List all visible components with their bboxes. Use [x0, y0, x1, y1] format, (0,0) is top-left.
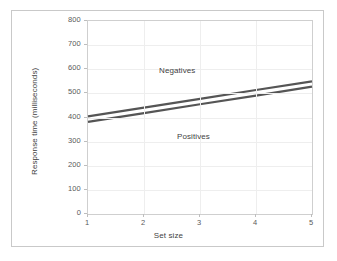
y-tick-label: 800 — [41, 15, 81, 24]
annotation-positives: Positives — [177, 132, 210, 141]
x-axis-label: Set size — [0, 231, 337, 240]
y-tick-mark — [84, 117, 87, 118]
annotation-negatives: Negatives — [159, 66, 195, 75]
chart-figure: Response time (milliseconds) 01002003004… — [0, 0, 337, 261]
x-tick-label: 5 — [301, 218, 321, 227]
x-tick-label: 4 — [245, 218, 265, 227]
y-axis-label: Response time (milliseconds) — [30, 67, 39, 174]
y-tick-mark — [84, 141, 87, 142]
x-tick-mark — [311, 214, 312, 217]
gridline-vertical — [144, 21, 145, 214]
x-tick-mark — [87, 214, 88, 217]
y-tick-label: 100 — [41, 184, 81, 193]
y-tick-mark — [84, 68, 87, 69]
y-tick-mark — [84, 92, 87, 93]
y-tick-label: 600 — [41, 63, 81, 72]
gridline-vertical — [256, 21, 257, 214]
y-tick-mark — [84, 20, 87, 21]
y-tick-mark — [84, 189, 87, 190]
x-tick-mark — [199, 214, 200, 217]
y-tick-label: 400 — [41, 112, 81, 121]
x-tick-label: 2 — [133, 218, 153, 227]
x-tick-mark — [143, 214, 144, 217]
y-tick-mark — [84, 165, 87, 166]
x-tick-label: 3 — [189, 218, 209, 227]
x-tick-mark — [255, 214, 256, 217]
plot-area — [87, 20, 313, 215]
y-tick-mark — [84, 44, 87, 45]
x-tick-label: 1 — [77, 218, 97, 227]
y-tick-label: 500 — [41, 87, 81, 96]
y-tick-label: 0 — [41, 208, 81, 217]
y-tick-label: 200 — [41, 160, 81, 169]
y-tick-label: 300 — [41, 136, 81, 145]
y-tick-label: 700 — [41, 39, 81, 48]
gridline-vertical — [200, 21, 201, 214]
